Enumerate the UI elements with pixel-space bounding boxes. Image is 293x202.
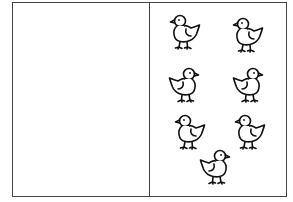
chick-icon [166, 12, 206, 52]
chick-icon [229, 15, 269, 55]
chick-icon [227, 65, 267, 105]
chick-icon [163, 65, 203, 105]
left-panel-empty [13, 3, 150, 196]
chick-icon [231, 112, 271, 152]
chick-icon [194, 147, 234, 187]
chick-icon [171, 112, 211, 152]
